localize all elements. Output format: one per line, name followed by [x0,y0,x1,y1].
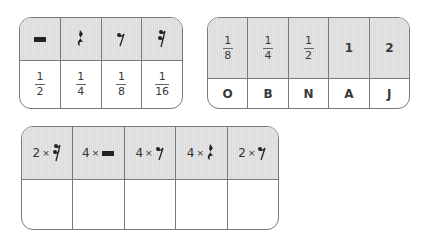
code-letter: A [344,87,353,101]
puzzle-expressions-row: 2× 4× 4× 4× 2× [22,127,278,180]
header-cell: 1 [329,18,369,78]
code-letter: N [303,87,313,101]
value-cell: 116 [142,61,182,108]
code-letter: O [223,87,233,101]
answer-box[interactable] [73,180,124,229]
fraction: 14 [263,35,273,62]
code-letter: B [264,87,273,101]
letter-cell: J [370,79,409,108]
eighth-rest-icon [116,31,126,47]
answer-box[interactable] [176,180,227,229]
header-cell [20,18,61,60]
header-cell [61,18,102,60]
multiplication-expression: 4× [187,143,216,163]
rest-values-row: 12 14 18 116 [20,61,182,108]
quarter-rest-icon [76,29,86,49]
answer-box[interactable] [228,180,278,229]
header-cell: 4× [125,127,176,179]
half-rest-icon [33,35,47,43]
quarter-rest-icon [206,143,216,163]
header-cell: 4× [73,127,124,179]
fraction: 14 [76,71,86,98]
puzzle-table: 2× 4× 4× 4× 2× [21,126,279,230]
whole-number: 2 [385,41,393,55]
puzzle-answers-row [22,180,278,229]
header-cell: 12 [289,18,329,78]
letter-cell: A [329,79,369,108]
answer-box[interactable] [22,180,73,229]
letter-code-table: 18 14 12 1 2 O B N A J [207,17,410,109]
half-rest-icon [101,149,115,157]
whole-number: 1 [345,41,353,55]
rest-values-table: 12 14 18 116 [19,17,183,109]
multiplication-expression: 2× [238,145,267,161]
fraction: 116 [155,71,169,98]
header-cell [102,18,143,60]
value-cell: 18 [102,61,143,108]
fraction: 12 [35,71,45,98]
header-cell [142,18,182,60]
sixteenth-rest-icon [157,29,167,49]
letter-cell: B [248,79,288,108]
header-cell: 2× [22,127,73,179]
letter-cell: O [208,79,248,108]
value-cell: 12 [20,61,61,108]
header-cell: 4× [176,127,227,179]
eighth-rest-icon [155,145,165,161]
multiplication-expression: 4× [82,146,115,160]
multiplication-expression: 4× [135,145,164,161]
header-cell: 14 [248,18,288,78]
eighth-rest-icon [257,145,267,161]
header-cell: 18 [208,18,248,78]
header-cell: 2 [370,18,409,78]
fraction: 18 [116,71,126,98]
code-values-row: 18 14 12 1 2 [208,18,409,79]
rest-symbols-row [20,18,182,61]
header-cell: 2× [228,127,278,179]
fraction: 12 [304,35,314,62]
multiplication-expression: 2× [33,143,62,163]
code-letter: J [387,87,391,101]
letter-cell: N [289,79,329,108]
answer-box[interactable] [125,180,176,229]
code-letters-row: O B N A J [208,79,409,108]
value-cell: 14 [61,61,102,108]
sixteenth-rest-icon [52,143,62,163]
fraction: 18 [223,35,233,62]
